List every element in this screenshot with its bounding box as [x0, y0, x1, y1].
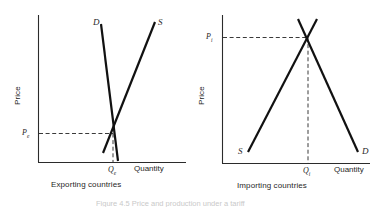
supply-label-exporting: S [158, 18, 163, 27]
panel-importing [222, 15, 370, 164]
economics-figure: Price Quantity Pe Qe D S Exporting count… [0, 0, 386, 207]
supply-label-importing: S [238, 147, 243, 156]
x-axis-title-exporting: Quantity [134, 165, 164, 173]
price-tick-sub-importing: i [211, 37, 213, 43]
panel-caption-exporting: Exporting countries [51, 181, 121, 189]
y-axis-title-importing: Price [198, 86, 206, 105]
supply-curve-exporting [103, 22, 155, 153]
price-tick-sub-exporting: e [27, 133, 29, 139]
plot-canvas [0, 0, 386, 207]
demand-curve-exporting [101, 24, 118, 161]
x-axis-title-importing: Quantity [334, 166, 364, 174]
quantity-tick-importing: Qi [303, 167, 310, 177]
demand-curve-importing [298, 19, 358, 152]
figure-caption: Figure 4.5 Price and production under a … [96, 199, 306, 207]
quantity-tick-sub-exporting: e [114, 170, 116, 176]
panel-caption-importing: Importing countries [237, 182, 307, 190]
quantity-tick-exporting: Qe [108, 166, 116, 176]
demand-label-exporting: D [93, 18, 100, 27]
demand-label-importing: D [362, 147, 369, 156]
panel-exporting [38, 15, 186, 163]
y-axis-title-exporting: Price [14, 86, 22, 105]
price-tick-exporting: Pe [22, 129, 29, 139]
price-tick-importing: Pi [206, 33, 212, 43]
quantity-tick-sub-importing: i [309, 171, 311, 177]
